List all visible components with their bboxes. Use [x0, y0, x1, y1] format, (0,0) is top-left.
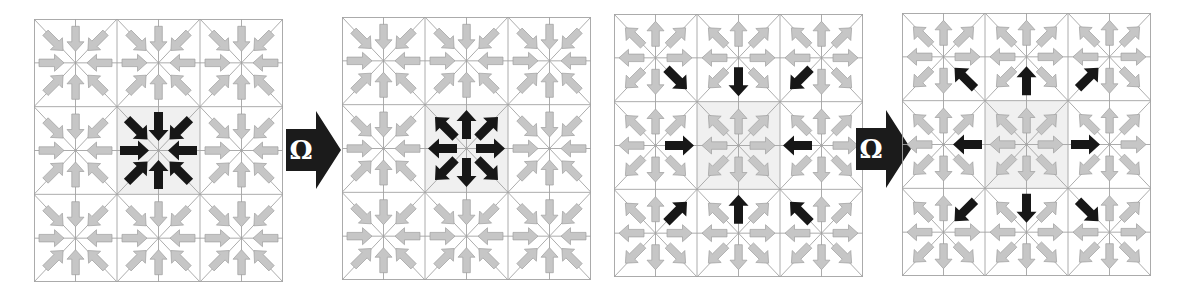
omega-operator-1: Ω	[286, 111, 342, 189]
figure-canvas: Ω Ω	[0, 0, 1183, 294]
grid-lines	[34, 19, 283, 282]
omega-label: Ω	[289, 135, 312, 165]
omega-label: Ω	[859, 134, 882, 164]
lattice-panel-3	[614, 14, 863, 277]
lattice-panel-4	[902, 13, 1151, 276]
lattice-panel-2	[342, 17, 591, 280]
grid-lines	[614, 14, 863, 277]
lattice-panel-1	[34, 19, 283, 282]
grid-lines	[902, 13, 1151, 276]
grid-lines	[342, 17, 591, 280]
